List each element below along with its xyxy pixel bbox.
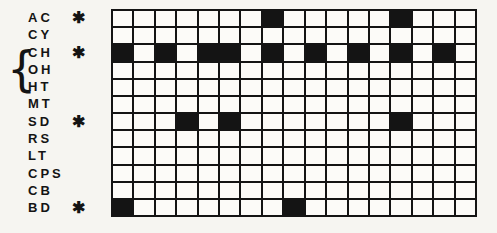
grid-cell (349, 63, 368, 78)
grid-cell-filled (156, 45, 175, 60)
grid-cell (156, 166, 175, 181)
grid-cell (434, 63, 453, 78)
grid-cell-filled (284, 200, 303, 215)
grid-cell (370, 131, 389, 146)
grid-cell (199, 63, 218, 78)
grid-cell (413, 28, 432, 43)
grid-cell (391, 166, 410, 181)
grid-cell (306, 114, 325, 129)
grid-cell (199, 97, 218, 112)
grid-cell (370, 97, 389, 112)
grid-cell (306, 63, 325, 78)
grid-cell-filled (177, 114, 196, 129)
grid-cell (156, 183, 175, 198)
grid-cell (134, 45, 153, 60)
grid-cell (113, 11, 132, 26)
grid-cell (134, 183, 153, 198)
grid-cell (199, 166, 218, 181)
grid-cell (263, 200, 282, 215)
grid-cell (370, 114, 389, 129)
scanned-matrix-figure: AC CY CH OH HT MT SD RS LT CPS CB BD ✱ ✱… (0, 0, 497, 233)
grid-cell (284, 148, 303, 163)
grid-cell-filled (199, 45, 218, 60)
grid-cell (156, 97, 175, 112)
grid-cell (456, 45, 475, 60)
grid-cell (391, 131, 410, 146)
grid-cell (413, 80, 432, 95)
grid-cell (199, 183, 218, 198)
grid-cell (220, 63, 239, 78)
grid-cell (306, 166, 325, 181)
grid-cell (113, 183, 132, 198)
grid-cell (327, 97, 346, 112)
grid-cell (241, 97, 260, 112)
grid-cell (456, 11, 475, 26)
grid-cell (370, 148, 389, 163)
grid-cell (413, 200, 432, 215)
grid-cell (413, 63, 432, 78)
grid-cell (456, 131, 475, 146)
grid-cell-filled (349, 45, 368, 60)
grid-cell (113, 114, 132, 129)
grid-cell (134, 97, 153, 112)
grid-cell (177, 63, 196, 78)
grid-cell (434, 11, 453, 26)
grid-cell (391, 28, 410, 43)
grid-cell (113, 80, 132, 95)
grid-cell (134, 63, 153, 78)
grid-cell (456, 200, 475, 215)
grid-cell (391, 148, 410, 163)
grid-cell (113, 97, 132, 112)
grid-cell (391, 183, 410, 198)
grid-cell (370, 166, 389, 181)
grid-cell (241, 28, 260, 43)
grid-cell (263, 28, 282, 43)
grid-cell (199, 11, 218, 26)
grid-cell (306, 183, 325, 198)
grid-cell (156, 11, 175, 26)
grid-cell (370, 28, 389, 43)
grid-cell (241, 80, 260, 95)
grid-cell (263, 183, 282, 198)
grid-cell (327, 45, 346, 60)
grid-cell (327, 131, 346, 146)
grid-cell (134, 166, 153, 181)
grid-cell (241, 200, 260, 215)
grid-cell (349, 148, 368, 163)
grid-cell (370, 11, 389, 26)
grid-cell (220, 80, 239, 95)
grid-cell (349, 131, 368, 146)
grid-cell (413, 97, 432, 112)
grid-cell (327, 80, 346, 95)
grid-cell (391, 63, 410, 78)
grid-cell (284, 166, 303, 181)
grid-cell (284, 45, 303, 60)
row-label-ht: HT (28, 79, 84, 95)
grid-cell (434, 166, 453, 181)
grid-cell (284, 183, 303, 198)
grid-cell (263, 148, 282, 163)
grid-cell (349, 183, 368, 198)
grid-cell (284, 131, 303, 146)
grid-cell (199, 148, 218, 163)
grid-cell (263, 131, 282, 146)
row-label-cb: CB (28, 183, 84, 199)
grid-cell-filled (113, 200, 132, 215)
grid-cell (413, 11, 432, 26)
grid-cell (434, 80, 453, 95)
grid-cell (370, 200, 389, 215)
grid-cell (113, 131, 132, 146)
grid-cell (349, 200, 368, 215)
row-label-lt: LT (28, 148, 84, 164)
grid-cell (263, 80, 282, 95)
row-label-cy: CY (28, 27, 84, 43)
asterisk-icon: ✱ (69, 45, 87, 61)
grid-cell-filled (263, 11, 282, 26)
grid-cell (306, 148, 325, 163)
grid-cell (456, 97, 475, 112)
grid-cell (434, 148, 453, 163)
grid-cell (177, 97, 196, 112)
grid-cell (220, 200, 239, 215)
grid-cell (327, 28, 346, 43)
grid-cell (134, 28, 153, 43)
